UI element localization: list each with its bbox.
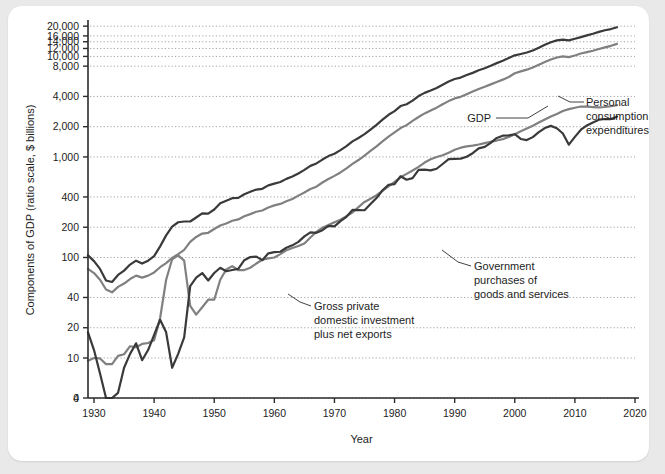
gdp-label-leader — [496, 106, 548, 118]
y-tick-label-zero: 0 — [73, 392, 79, 404]
grid-lines — [90, 26, 635, 398]
y-tick-label: 20 — [67, 321, 79, 333]
personal-consumption-label: Personalconsumptionexpenditures — [586, 96, 649, 136]
x-axis-title: Year — [350, 433, 373, 445]
x-tick-label: 1990 — [443, 407, 467, 419]
gdp-label-line: GDP — [467, 112, 491, 124]
government-purchases-label-leader — [442, 250, 471, 266]
personal-consumption-label-line: consumption — [586, 110, 648, 122]
x-tick-label: 1940 — [142, 407, 166, 419]
y-axis-title: Components of GDP (ratio scale, $ billio… — [24, 105, 36, 316]
y-tick-label: 100 — [61, 251, 79, 263]
y-tick-label: 10 — [67, 352, 79, 364]
gross-private-investment-label-line: Gross private — [314, 300, 379, 312]
y-tick-label: 2,000 — [53, 120, 79, 132]
x-tick-label: 2010 — [563, 407, 587, 419]
series-line-personal-consumption-expenditures — [88, 44, 617, 292]
personal-consumption-label-leader — [558, 96, 584, 102]
gross-private-investment-label: Gross privatedomestic investmentplus net… — [314, 300, 414, 340]
gross-private-investment-label-line: domestic investment — [314, 314, 414, 326]
government-purchases-label: Governmentpurchases ofgoods and services — [474, 260, 569, 300]
y-tick-label: 1,000 — [53, 151, 79, 163]
government-purchases-label-line: Government — [474, 260, 535, 272]
figure-card: 41020401002004001,0002,0004,0008,00010,0… — [8, 6, 649, 461]
x-axis: 1930194019501960197019801990200020102020 — [82, 398, 647, 419]
gdp-label: GDP — [467, 112, 491, 124]
x-tick-label: 1960 — [263, 407, 287, 419]
personal-consumption-label-line: expenditures — [586, 124, 649, 136]
x-tick-label: 1980 — [383, 407, 407, 419]
gdp-components-chart: 41020401002004001,0002,0004,0008,00010,0… — [8, 6, 649, 461]
y-tick-label: 200 — [61, 221, 79, 233]
gross-private-investment-label-line: plus net exports — [314, 328, 392, 340]
y-tick-label: 20,000 — [47, 20, 79, 32]
x-tick-label: 1930 — [82, 407, 106, 419]
x-tick-label: 2000 — [503, 407, 527, 419]
government-purchases-label-line: purchases of — [474, 274, 538, 286]
gross-private-investment-label-leader — [288, 294, 311, 306]
y-axis: 41020401002004001,0002,0004,0008,00010,0… — [47, 20, 88, 404]
series-lines — [88, 27, 617, 398]
x-tick-label: 1950 — [203, 407, 227, 419]
y-tick-label: 40 — [67, 291, 79, 303]
x-tick-label: 2020 — [623, 407, 647, 419]
y-tick-label: 4,000 — [53, 90, 79, 102]
personal-consumption-label-line: Personal — [586, 96, 629, 108]
x-tick-label: 1970 — [323, 407, 347, 419]
y-tick-label: 400 — [61, 191, 79, 203]
government-purchases-label-line: goods and services — [474, 288, 569, 300]
